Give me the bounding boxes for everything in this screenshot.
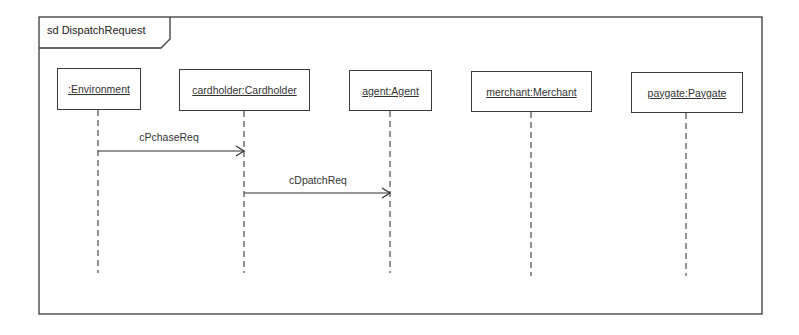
lifeline-head-environment: :Environment xyxy=(57,68,141,110)
lifeline-head-merchant: merchant:Merchant xyxy=(471,71,592,112)
message-label-1: cPchaseReq xyxy=(139,131,199,143)
lifeline-label: paygate:Paygate xyxy=(648,87,727,99)
lifeline-head-agent: agent:Agent xyxy=(349,70,432,111)
lifeline-label: :Environment xyxy=(68,83,130,95)
lifeline-head-paygate: paygate:Paygate xyxy=(631,72,743,113)
sequence-diagram-canvas xyxy=(0,0,799,335)
message-arrow-1 xyxy=(98,146,244,156)
interaction-frame xyxy=(39,17,762,314)
lifeline-label: merchant:Merchant xyxy=(486,86,576,98)
lifeline-head-cardholder: cardholder:Cardholder xyxy=(179,69,310,111)
message-arrow-2 xyxy=(244,188,390,198)
frame-title: sd DispatchRequest xyxy=(47,24,145,36)
message-label-2: cDpatchReq xyxy=(289,174,347,186)
lifeline-label: agent:Agent xyxy=(362,85,419,97)
lifeline-label: cardholder:Cardholder xyxy=(192,84,296,96)
